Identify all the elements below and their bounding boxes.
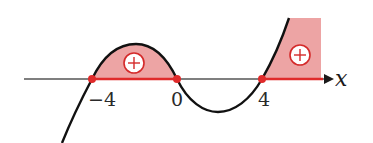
tick-label-0: 0: [171, 88, 183, 110]
root-dot-0: [173, 75, 181, 83]
plus-marker-left-icon: [124, 53, 144, 73]
x-axis-arrow-icon: [324, 74, 334, 84]
x-axis-label: x: [335, 66, 348, 91]
tick-label-4: 4: [258, 88, 270, 110]
root-dot-4: [258, 75, 266, 83]
root-dot-neg4: [88, 75, 96, 83]
tick-label-neg4: −4: [88, 88, 116, 110]
plus-marker-right-icon: [290, 45, 310, 65]
sign-diagram: −4 0 4 x: [0, 0, 373, 143]
